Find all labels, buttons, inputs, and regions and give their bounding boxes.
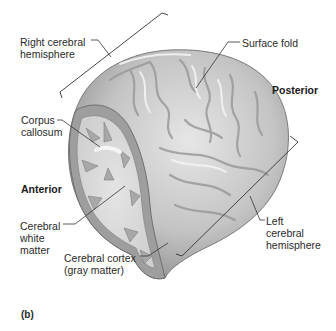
label-cerebral-white-matter: Cerebral white matter (20, 220, 60, 256)
label-posterior: Posterior (272, 84, 318, 96)
label-right-cerebral-hemisphere: Right cerebral hemisphere (20, 36, 85, 60)
label-cerebral-cortex: Cerebral cortex (gray matter) (64, 252, 136, 276)
label-left-cerebral-hemisphere: Left cerebral hemisphere (266, 215, 321, 251)
label-surface-fold: Surface fold (242, 37, 298, 49)
panel-label: (b) (21, 309, 34, 321)
label-corpus-callosum: Corpus callosum (21, 114, 62, 138)
label-anterior: Anterior (21, 183, 62, 195)
